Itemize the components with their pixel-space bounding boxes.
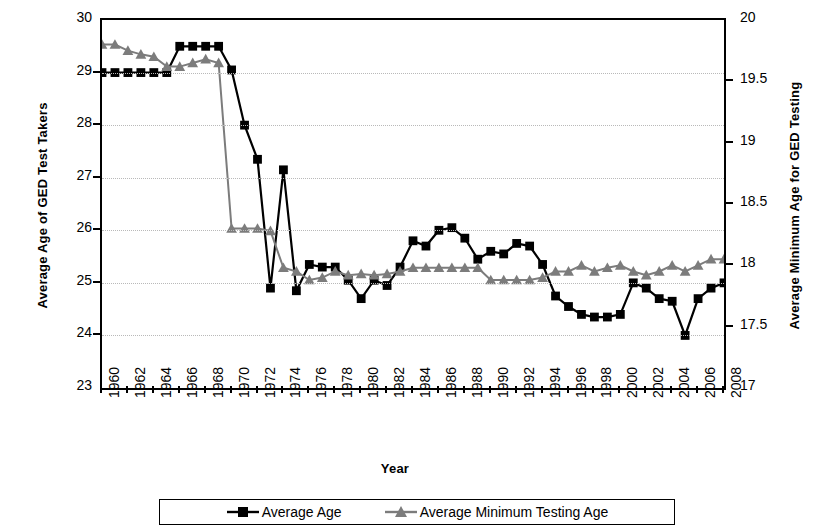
data-point <box>292 286 301 295</box>
data-point <box>318 263 327 272</box>
data-point <box>525 242 534 251</box>
x-axis-tick <box>618 386 620 393</box>
data-point <box>499 250 508 259</box>
plot-area <box>100 18 726 390</box>
data-point <box>603 313 612 322</box>
y-axis-right-tick <box>726 263 733 265</box>
x-axis-tick <box>644 386 646 393</box>
x-axis-tick-label: 1964 <box>158 367 174 398</box>
data-point <box>201 42 210 51</box>
x-axis-tick-label: 1988 <box>469 367 485 398</box>
y-axis-left-tick <box>93 71 100 73</box>
x-axis-tick-label: 2000 <box>624 367 640 398</box>
legend-item-1: Average Age <box>226 504 342 520</box>
x-axis-tick <box>126 386 128 393</box>
x-axis-tick-label: 2002 <box>650 367 666 398</box>
x-axis-tick-label: 2006 <box>702 367 718 398</box>
x-axis-tick <box>411 386 413 393</box>
data-point <box>655 294 664 303</box>
gridline <box>102 125 724 126</box>
y-axis-left-tick <box>93 333 100 335</box>
x-axis-tick-label: 1996 <box>573 367 589 398</box>
data-point <box>409 236 418 245</box>
data-point <box>694 294 703 303</box>
y-axis-right-tick-label: 17.5 <box>740 316 767 332</box>
data-point <box>668 297 677 306</box>
x-axis-tick <box>152 386 154 393</box>
legend-label: Average Minimum Testing Age <box>420 504 609 520</box>
y-axis-left-tick <box>93 228 100 230</box>
y-axis-left-tick-label: 27 <box>48 167 92 183</box>
y-axis-right-tick-label: 18.5 <box>740 193 767 209</box>
data-point <box>667 260 678 270</box>
data-point <box>200 54 211 64</box>
x-axis-tick-label: 1992 <box>521 367 537 398</box>
data-point <box>175 42 184 51</box>
y-axis-left-tick-label: 29 <box>48 62 92 78</box>
data-point <box>123 45 134 55</box>
gridline <box>102 283 724 284</box>
x-axis-tick <box>204 386 206 393</box>
x-axis-tick-label: 1980 <box>365 367 381 398</box>
y-axis-left-tick-label: 23 <box>48 377 92 393</box>
data-point <box>357 294 366 303</box>
gridline <box>102 178 724 179</box>
data-point <box>278 262 289 272</box>
y-axis-left-tick-label: 25 <box>48 272 92 288</box>
data-series-layer <box>102 20 724 388</box>
data-point <box>214 42 223 51</box>
data-point <box>538 260 547 269</box>
y-axis-right-tick <box>726 202 733 204</box>
x-axis-tick <box>359 386 361 393</box>
y-axis-left-tick <box>93 123 100 125</box>
x-axis-tick-label: 1970 <box>236 367 252 398</box>
x-axis-tick <box>696 386 698 393</box>
series-2 <box>102 39 724 284</box>
gridline <box>102 73 724 74</box>
legend-label: Average Age <box>262 504 342 520</box>
x-axis-tick-label: 1972 <box>262 367 278 398</box>
data-point <box>253 155 262 164</box>
x-axis-tick-label: 1984 <box>417 367 433 398</box>
data-point <box>693 260 704 270</box>
x-axis-tick-label: 1976 <box>313 367 329 398</box>
y-axis-right-tick-label: 19.5 <box>740 70 767 86</box>
data-point <box>564 302 573 311</box>
x-axis-tick-label: 1990 <box>495 367 511 398</box>
data-point <box>628 266 639 276</box>
data-point <box>576 260 587 270</box>
x-axis-tick <box>722 386 724 393</box>
x-axis-tick <box>592 386 594 393</box>
x-axis-tick-label: 1986 <box>443 367 459 398</box>
y-axis-left-tick <box>93 281 100 283</box>
legend-square-marker-icon <box>226 504 260 520</box>
y-axis-left-tick-label: 26 <box>48 219 92 235</box>
x-axis-tick <box>437 386 439 393</box>
series-1 <box>102 42 724 340</box>
y-axis-right-tick-label: 18 <box>740 254 756 270</box>
data-point <box>486 247 495 256</box>
data-point <box>616 310 625 319</box>
x-axis-tick <box>307 386 309 393</box>
x-axis-tick <box>541 386 543 393</box>
y-axis-right-tick <box>726 325 733 327</box>
ged-age-chart: Average Age of GED Test Takers Average M… <box>0 0 834 529</box>
data-point <box>473 255 482 264</box>
x-axis-tick-label: 1974 <box>287 367 303 398</box>
x-axis-tick <box>567 386 569 393</box>
x-axis-tick <box>463 386 465 393</box>
gridline <box>102 335 724 336</box>
y-axis-left-tick-label: 30 <box>48 9 92 25</box>
x-axis-tick <box>333 386 335 393</box>
x-axis-tick <box>281 386 283 393</box>
legend-triangle-marker-icon <box>384 504 418 520</box>
x-axis-tick <box>489 386 491 393</box>
x-axis-tick <box>178 386 180 393</box>
data-point <box>512 239 521 248</box>
data-point <box>680 266 691 276</box>
x-axis-tick-label: 1994 <box>547 367 563 398</box>
x-axis-tick-label: 1998 <box>598 367 614 398</box>
y-axis-left-tick-label: 24 <box>48 324 92 340</box>
data-point <box>642 284 651 293</box>
data-point <box>460 234 469 243</box>
